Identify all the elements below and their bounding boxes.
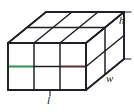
width-label: w bbox=[106, 73, 113, 84]
height-label: h bbox=[119, 15, 125, 26]
prism-figure: h w l bbox=[0, 0, 134, 112]
prism-diagram-svg bbox=[0, 0, 134, 112]
length-label: l bbox=[47, 95, 50, 106]
